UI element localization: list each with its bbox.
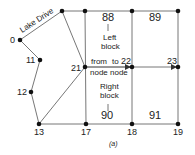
left-block-label: Left: [103, 33, 117, 42]
node-top-85: [83, 9, 88, 14]
right-block-label: Right: [100, 82, 119, 91]
node-label-13: 13: [34, 127, 44, 137]
node-label-12: 12: [17, 87, 27, 97]
node-18: [130, 122, 135, 127]
node-17: [84, 122, 89, 127]
node-21: [83, 65, 88, 70]
node-label-0: 0: [10, 35, 15, 45]
node-label-21: 21: [71, 63, 81, 73]
node-label-23: 23: [167, 56, 177, 66]
node-12: [29, 90, 34, 95]
node-label-18: 18: [127, 127, 137, 137]
to-node-label-2: node: [110, 68, 128, 77]
edge-diag-21: [62, 11, 85, 67]
block-label-91: 91: [149, 109, 161, 121]
block-label-88: 88: [102, 11, 114, 23]
node-19: [176, 122, 181, 127]
node-top-132: [130, 9, 135, 14]
from-node-label-2: node: [90, 68, 108, 77]
node-label-19: 19: [173, 127, 183, 137]
node-label-11: 11: [26, 55, 35, 65]
node-label-17: 17: [81, 127, 91, 137]
node-lake-drive-end: [60, 9, 65, 14]
block-label-90: 90: [101, 109, 113, 121]
block-label-89: 89: [149, 11, 161, 23]
node-label-22: 22: [121, 56, 131, 66]
right-block-label-2: block: [100, 91, 120, 100]
figure-caption: (a): [109, 140, 118, 148]
from-node-label: from: [91, 57, 107, 66]
left-block-label-2: block: [101, 42, 121, 51]
edge-21-13: [39, 67, 85, 124]
edge-12-13: [31, 92, 39, 124]
node-0: [18, 38, 23, 43]
node-top-178: [176, 9, 181, 14]
node-13: [37, 122, 42, 127]
node-11: [38, 58, 43, 63]
street-label-lake-drive: Lake Drive: [18, 6, 55, 35]
street-network-diagram: Lake Drive 0 11 12 13 17 18 19 21 22 23 …: [0, 0, 195, 155]
to-node-label: to: [112, 57, 119, 66]
